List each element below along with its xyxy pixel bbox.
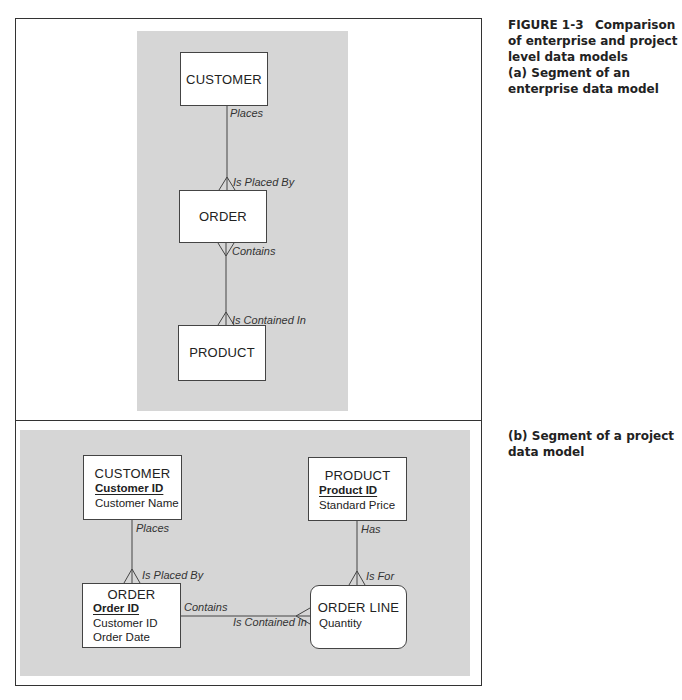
relationship-label: Places — [136, 522, 169, 534]
entity-name: ORDER — [180, 209, 266, 224]
entity-product-project: PRODUCT Product ID Standard Price — [308, 457, 407, 521]
entity-name: CUSTOMER — [84, 466, 181, 481]
figure-caption-a: FIGURE 1-3 Comparison of enterprise and … — [508, 17, 682, 97]
entity-order-line-project: ORDER LINE Quantity — [310, 585, 407, 649]
attribute: Order Date — [93, 631, 150, 643]
entity-customer-enterprise: CUSTOMER — [180, 52, 268, 106]
entity-name: CUSTOMER — [181, 72, 267, 87]
figure-subtitle-a: (a) Segment of an enterprise data model — [508, 66, 659, 96]
relationship-label: Is Contained In — [232, 314, 306, 326]
attribute: Customer ID — [93, 617, 158, 629]
relationship-label: Has — [361, 523, 381, 535]
relationship-label: Places — [230, 107, 263, 119]
figure-label: FIGURE 1-3 — [508, 18, 584, 32]
relationship-label: Is Placed By — [233, 176, 294, 188]
attribute: Standard Price — [319, 499, 395, 511]
entity-name: ORDER — [83, 587, 180, 602]
primary-key-attribute: Product ID — [319, 484, 377, 496]
entity-order-enterprise: ORDER — [179, 190, 267, 243]
entity-name: PRODUCT — [179, 345, 265, 360]
relationship-label: Is Placed By — [142, 569, 203, 581]
entity-name: PRODUCT — [309, 468, 406, 483]
primary-key-attribute: Order ID — [93, 602, 139, 614]
primary-key-attribute: Customer ID — [95, 482, 163, 494]
figure-caption-b: (b) Segment of a project data model — [508, 428, 682, 460]
attribute: Customer Name — [95, 497, 179, 509]
relationship-label: Contains — [232, 245, 275, 257]
figure-subtitle-b: (b) Segment of a project data model — [508, 429, 674, 459]
entity-name: ORDER LINE — [311, 600, 406, 615]
relationship-label: Is For — [366, 570, 394, 582]
entity-product-enterprise: PRODUCT — [178, 325, 266, 381]
entity-customer-project: CUSTOMER Customer ID Customer Name — [83, 455, 182, 520]
attribute: Quantity — [319, 617, 362, 629]
relationship-label: Contains — [184, 601, 227, 613]
relationship-label: Is Contained In — [233, 616, 307, 628]
entity-order-project: ORDER Order ID Customer ID Order Date — [82, 583, 181, 648]
